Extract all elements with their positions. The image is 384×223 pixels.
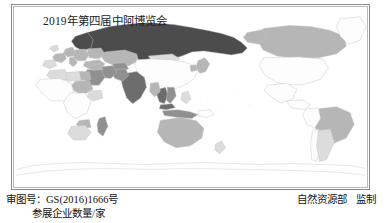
island-speck — [233, 93, 234, 94]
supervisor-suffix: 监制 — [356, 194, 376, 205]
country-korea — [190, 65, 197, 72]
island-speck — [207, 100, 208, 101]
map-frame: .c{stroke:#c3c3c3;stroke-width:.45;strok… — [11, 4, 370, 190]
island-speck — [132, 143, 133, 144]
map-canvas: .c{stroke:#c3c3c3;stroke-width:.45;strok… — [13, 6, 368, 188]
island-speck — [217, 108, 218, 109]
map-title: 2019年第四届中阿博览会 — [43, 14, 168, 28]
world-map-svg: .c{stroke:#c3c3c3;stroke-width:.45;strok… — [14, 7, 367, 187]
legend-label: 参展企业数量/家 — [6, 207, 118, 221]
map-page: .c{stroke:#c3c3c3;stroke-width:.45;strok… — [0, 0, 384, 223]
caption-right: 自然资源部监制 — [297, 193, 376, 207]
supervisor-agency: 自然资源部 — [297, 194, 347, 205]
caption-left: 审图号：GS(2016)1666号 参展企业数量/家 — [6, 193, 118, 221]
map-caption-block: 审图号：GS(2016)1666号 参展企业数量/家 自然资源部监制 — [0, 190, 384, 223]
island-speck — [249, 104, 250, 105]
review-number: 审图号：GS(2016)1666号 — [6, 194, 118, 205]
